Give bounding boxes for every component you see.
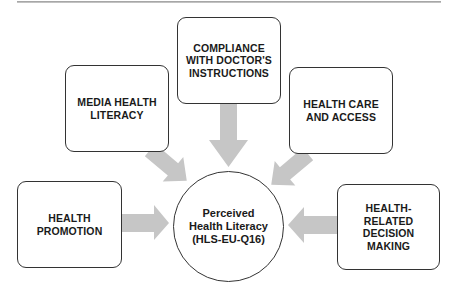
factor-label: MEDIA HEALTH LITERACY <box>73 96 161 121</box>
factor-label: HEALTH CARE AND ACCESS <box>297 98 385 123</box>
factor-label: HEALTH-RELATED DECISION MAKING <box>359 202 419 252</box>
factor-label: HEALTH PROMOTION <box>35 212 105 237</box>
arrow-promotion-to-center <box>122 205 169 240</box>
center-label: Perceived Health Literacy (HLS-EU-Q16) <box>189 207 269 246</box>
factor-label: COMPLIANCE WITH DOCTOR'S INSTRUCTIONS <box>184 42 274 80</box>
factor-box-promotion: HEALTH PROMOTION <box>17 181 122 268</box>
center-circle: Perceived Health Literacy (HLS-EU-Q16) <box>173 171 284 282</box>
factor-box-decision: HEALTH-RELATED DECISION MAKING <box>337 184 440 270</box>
arrow-compliance-to-center <box>209 103 248 167</box>
factor-box-healthcare: HEALTH CARE AND ACCESS <box>289 67 393 154</box>
factor-box-compliance: COMPLIANCE WITH DOCTOR'S INSTRUCTIONS <box>177 17 281 104</box>
factor-box-media: MEDIA HEALTH LITERACY <box>65 65 169 152</box>
arrow-decision-to-center <box>288 207 337 243</box>
